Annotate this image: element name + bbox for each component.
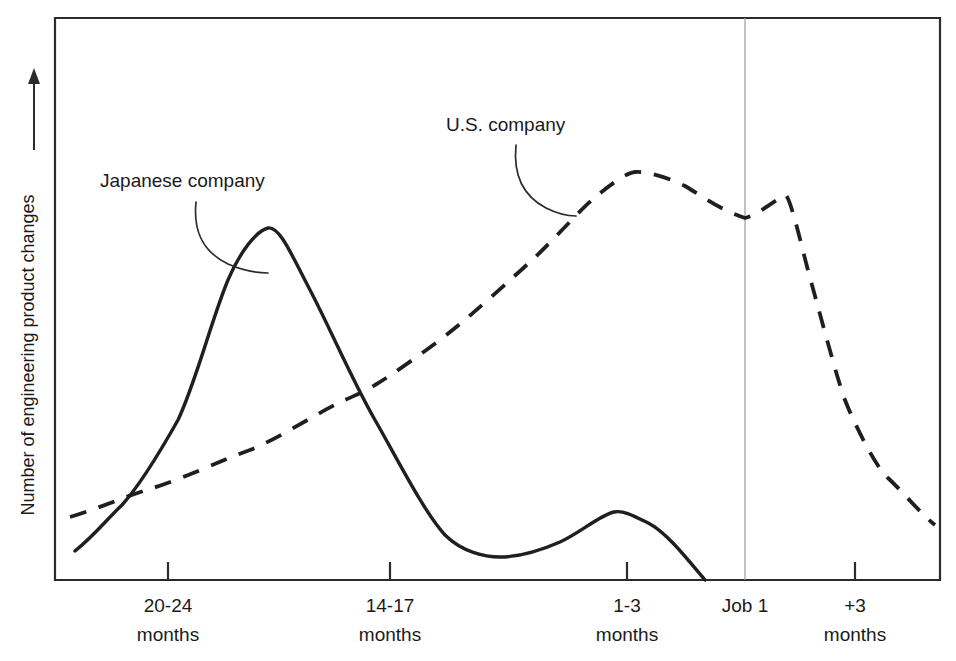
x-axis-tick-labels: 20-24 months 14-17 months 1-3 months Job… — [137, 595, 886, 645]
x-tick-label-job-1: Job 1 — [722, 595, 768, 616]
y-axis-title-group: Number of engineering product changes — [18, 68, 40, 516]
japanese-company-annotation-label: Japanese company — [100, 170, 265, 191]
x-tick-label-line1: 1-3 — [613, 595, 640, 616]
chart-container: Number of engineering product changes Ja… — [0, 0, 956, 661]
japanese-company-leader-line — [195, 202, 268, 273]
plot-border — [55, 18, 940, 580]
y-axis-arrow-head-icon — [28, 68, 40, 84]
y-axis-label: Number of engineering product changes — [18, 194, 38, 515]
x-tick-label-line1: 20-24 — [144, 595, 193, 616]
plot-frame — [55, 18, 940, 580]
x-tick-label-line1: +3 — [844, 595, 866, 616]
series-japanese-company — [75, 228, 705, 580]
x-tick-label-line1: 14-17 — [366, 595, 415, 616]
x-tick-label-line2: months — [824, 624, 886, 645]
x-tick-label-line2: months — [137, 624, 199, 645]
engineering-change-chart: Number of engineering product changes Ja… — [0, 0, 956, 661]
us-company-annotation: U.S. company — [446, 114, 576, 216]
japanese-company-annotation: Japanese company — [100, 170, 268, 273]
us-company-leader-line — [515, 145, 576, 216]
us-company-annotation-label: U.S. company — [446, 114, 566, 135]
x-tick-label-line2: months — [596, 624, 658, 645]
x-tick-label-line2: months — [359, 624, 421, 645]
series-us-company — [70, 172, 935, 525]
x-axis-ticks — [168, 562, 855, 580]
